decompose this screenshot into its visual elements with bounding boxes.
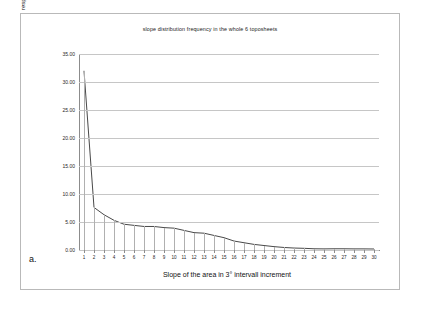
x-tick <box>324 250 325 253</box>
x-tick <box>294 250 295 253</box>
x-tick <box>264 250 265 253</box>
x-tick <box>114 250 115 253</box>
gridline <box>79 54 379 55</box>
bar <box>104 215 105 250</box>
x-tick <box>204 250 205 253</box>
x-tick <box>104 250 105 253</box>
bar <box>214 235 215 250</box>
bar <box>164 228 165 250</box>
y-tick-label: 35.00 <box>23 51 75 57</box>
gridline <box>79 222 379 223</box>
y-tick-label: 20.00 <box>23 135 75 141</box>
x-tick <box>84 250 85 253</box>
bar <box>84 71 85 250</box>
bar <box>244 243 245 250</box>
bar <box>184 230 185 250</box>
bar <box>194 233 195 250</box>
x-tick <box>284 250 285 253</box>
y-tick-label: 10.00 <box>23 191 75 197</box>
x-tick <box>274 250 275 253</box>
x-tick <box>154 250 155 253</box>
panel-label: a. <box>29 254 37 264</box>
bar <box>114 220 115 250</box>
figure-frame: slope distribution frequency in the whol… <box>20 13 400 290</box>
x-tick <box>254 250 255 253</box>
x-tick <box>214 250 215 253</box>
bar <box>224 238 225 250</box>
x-tick <box>124 250 125 253</box>
plot-area <box>79 54 379 250</box>
x-tick <box>224 250 225 253</box>
x-tick <box>334 250 335 253</box>
y-tick-label: 0.00 <box>23 247 75 253</box>
x-tick <box>134 250 135 253</box>
x-tick <box>314 250 315 253</box>
x-tick <box>364 250 365 253</box>
x-tick <box>354 250 355 253</box>
y-tick-label: 5.00 <box>23 219 75 225</box>
chart-title: slope distribution frequency in the whol… <box>21 26 399 32</box>
x-tick <box>244 250 245 253</box>
gridline <box>79 194 379 195</box>
x-tick <box>164 250 165 253</box>
y-tick-label: 25.00 <box>23 107 75 113</box>
x-tick <box>174 250 175 253</box>
x-tick <box>374 250 375 253</box>
x-tick <box>234 250 235 253</box>
gridline <box>79 138 379 139</box>
x-axis-title: Slope of the area in 3° intervall increm… <box>61 271 393 278</box>
gridline <box>79 82 379 83</box>
x-tick <box>144 250 145 253</box>
x-tick <box>94 250 95 253</box>
bar <box>204 233 205 250</box>
x-tick-label: 30 <box>367 255 381 260</box>
bar <box>94 207 95 250</box>
y-tick-label: 15.00 <box>23 163 75 169</box>
bar <box>154 226 155 250</box>
y-axis-tick-labels: 0.005.0010.0015.0020.0025.0030.0035.00 <box>21 14 75 291</box>
bar <box>134 225 135 250</box>
gridline <box>79 110 379 111</box>
bar <box>144 226 145 250</box>
x-tick <box>184 250 185 253</box>
bar <box>124 224 125 250</box>
gridline <box>79 166 379 167</box>
bar <box>234 241 235 250</box>
x-tick <box>194 250 195 253</box>
x-tick <box>304 250 305 253</box>
series-outline <box>79 54 379 250</box>
bar <box>174 228 175 250</box>
x-tick <box>344 250 345 253</box>
y-tick-label: 30.00 <box>23 79 75 85</box>
